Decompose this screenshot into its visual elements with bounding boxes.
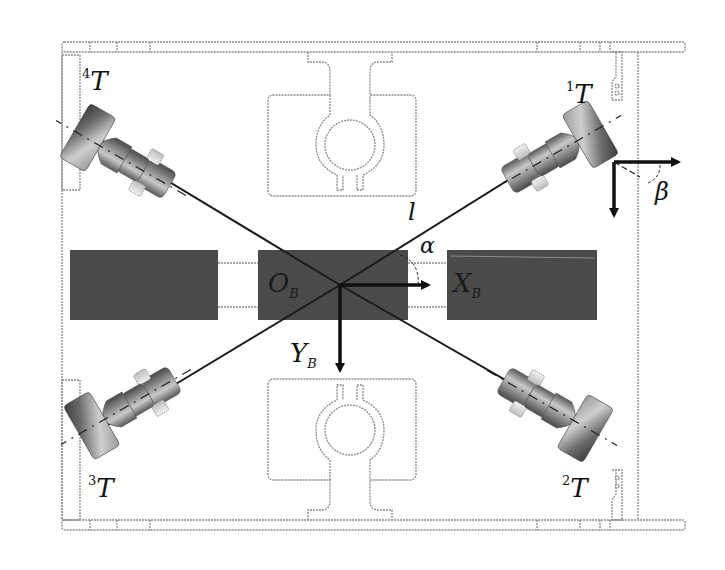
beta-label: β	[655, 180, 669, 204]
thruster-2-label: 2T	[562, 474, 588, 501]
thruster-2	[471, 345, 632, 474]
thruster-3-label: 3T	[88, 474, 114, 501]
left-block	[70, 250, 218, 320]
arm-length-label: l	[408, 200, 416, 224]
thruster-4	[41, 93, 202, 222]
thruster-1-label: 1T	[566, 80, 592, 107]
thruster-3	[45, 342, 206, 471]
y-axis-label: YB	[290, 340, 317, 370]
thruster-layout-diagram: 4T 1T 3T 2T OB XB YB l α β	[0, 0, 725, 570]
origin-label: OB	[268, 270, 299, 300]
x-axis-label: XB	[453, 270, 481, 300]
bottom-rail	[62, 520, 685, 530]
thruster-4-label: 4T	[82, 67, 108, 94]
bottom-clamp-bracket	[268, 379, 416, 520]
top-rail	[62, 42, 685, 52]
alpha-label: α	[420, 235, 435, 257]
top-clamp-bracket	[268, 52, 416, 196]
